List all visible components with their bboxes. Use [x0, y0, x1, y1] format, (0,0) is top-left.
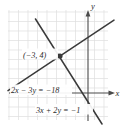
grid-lines — [8, 10, 108, 120]
x-axis-label: x — [115, 88, 120, 98]
intersection-point-label: (−3, 4) — [23, 51, 47, 60]
intersection-point-marker — [57, 53, 62, 58]
x-axis-arrow — [109, 91, 116, 96]
y-axis-arrow — [86, 10, 91, 17]
graph-figure: (−3, 4) 2x − 3y = −18 3x + 2y = −1 y x — [0, 0, 122, 125]
coordinate-plane-svg: (−3, 4) 2x − 3y = −18 3x + 2y = −1 y x — [0, 0, 122, 125]
line2-equation-label: 3x + 2y = −1 — [35, 106, 80, 115]
line1-equation-label: 2x − 3y = −18 — [11, 86, 59, 95]
y-axis-label: y — [90, 1, 95, 11]
